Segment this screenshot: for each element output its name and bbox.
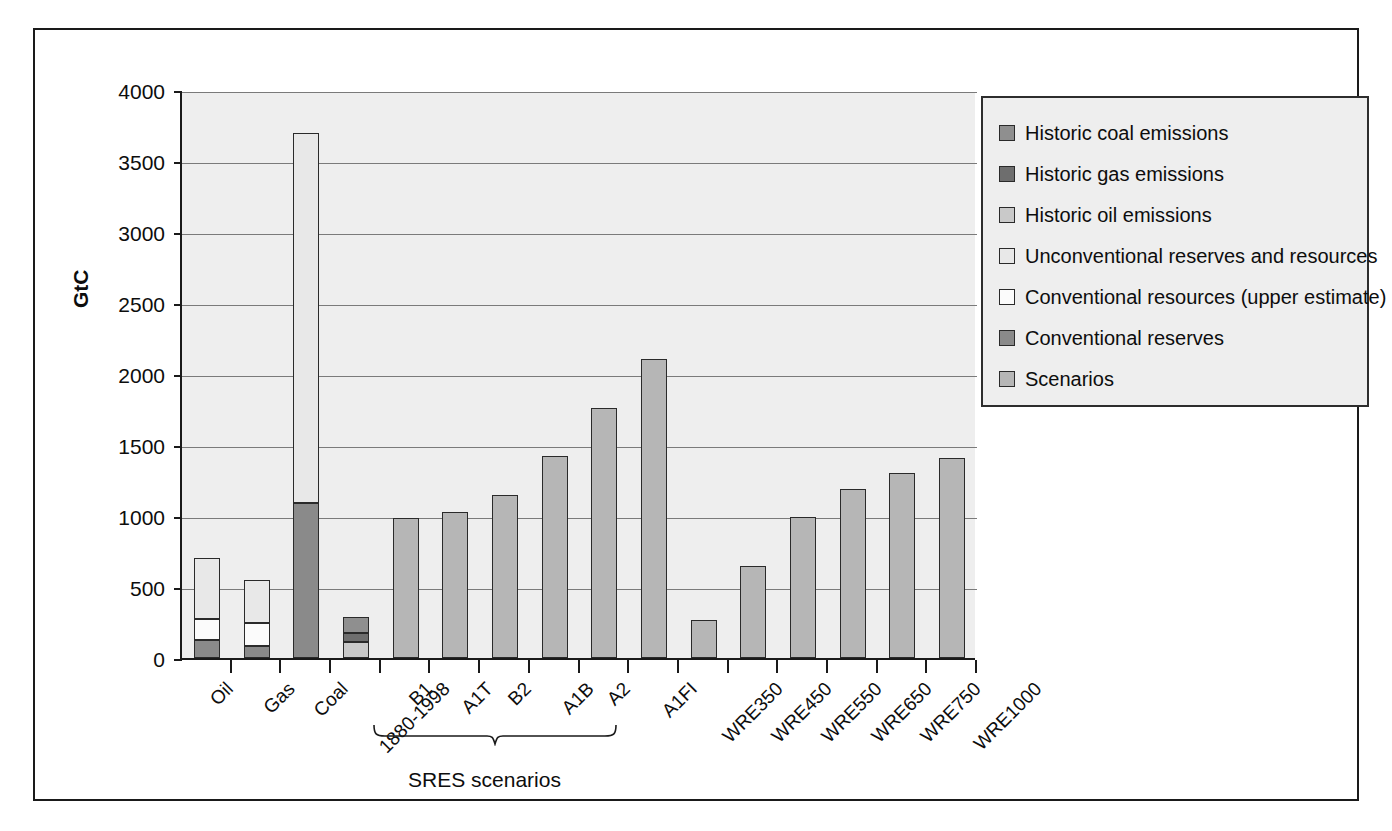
- segment-historic_gas: [343, 633, 369, 642]
- legend-label-1: Historic gas emissions: [1025, 164, 1224, 184]
- segment-conv_reserves: [293, 503, 319, 658]
- y-tick-label-2500: 2500: [95, 294, 165, 315]
- y-axis-title: GtC: [69, 270, 93, 309]
- y-tick-label-500: 500: [95, 578, 165, 599]
- bar-wre650: [840, 489, 866, 658]
- y-tick-3500: [174, 162, 182, 164]
- legend-item-4: Conventional resources (upper estimate): [999, 276, 1351, 317]
- bar-wre750: [889, 473, 915, 658]
- bar-b2: [492, 495, 518, 658]
- x-tick-label-a1b: A1B: [557, 678, 598, 719]
- segment-unconventional: [194, 558, 220, 619]
- bar-a1b: [542, 456, 568, 658]
- y-tick-label-1500: 1500: [95, 436, 165, 457]
- x-tick-3: [379, 660, 381, 673]
- plot-area-wrapper: [180, 92, 975, 660]
- x-tick-15: [975, 660, 977, 673]
- bar-1880-1998: [343, 617, 369, 658]
- legend-item-3: Unconventional reserves and resources: [999, 235, 1351, 276]
- x-tick-13: [876, 660, 878, 673]
- bar-wre550: [790, 517, 816, 658]
- legend-swatch-historic-gas-icon: [999, 166, 1015, 182]
- y-tick-2000: [174, 375, 182, 377]
- x-tick-label-coal: Coal: [310, 678, 353, 721]
- chart-page: GtC 05001000150020002500300035004000 Oil…: [0, 0, 1392, 831]
- legend-label-4: Conventional resources (upper estimate): [1025, 287, 1386, 307]
- x-tick-label-a2: A2: [603, 678, 635, 710]
- segment-scenarios: [740, 566, 766, 658]
- bar-a1t: [442, 512, 468, 658]
- bar-oil: [194, 558, 220, 658]
- x-tick-5: [478, 660, 480, 673]
- segment-unconventional: [293, 133, 319, 504]
- segment-historic_coal: [343, 617, 369, 633]
- legend-label-5: Conventional reserves: [1025, 328, 1224, 348]
- legend-swatch-unconventional-icon: [999, 248, 1015, 264]
- bar-wre350: [691, 620, 717, 658]
- segment-scenarios: [939, 458, 965, 658]
- segment-scenarios: [393, 518, 419, 658]
- legend-label-3: Unconventional reserves and resources: [1025, 246, 1377, 266]
- gridline-4000: [182, 92, 977, 93]
- segment-unconventional: [244, 580, 270, 623]
- y-tick-2500: [174, 304, 182, 306]
- x-tick-11: [776, 660, 778, 673]
- legend-swatch-historic-oil-icon: [999, 207, 1015, 223]
- x-tick-10: [727, 660, 729, 673]
- bar-b1: [393, 518, 419, 658]
- x-tick-12: [826, 660, 828, 673]
- bar-wre1000: [939, 458, 965, 658]
- segment-scenarios: [641, 359, 667, 658]
- x-tick-label-a1fi: A1FI: [658, 678, 702, 722]
- segment-conv_reserves: [194, 640, 220, 658]
- y-tick-3000: [174, 233, 182, 235]
- segment-scenarios: [840, 489, 866, 658]
- y-tick-label-0: 0: [95, 649, 165, 670]
- x-tick-0: [230, 660, 232, 673]
- segment-conv_resources: [194, 619, 220, 640]
- x-tick-14: [925, 660, 927, 673]
- bar-a1fi: [641, 359, 667, 658]
- segment-scenarios: [591, 408, 617, 658]
- x-tick-8: [627, 660, 629, 673]
- segment-scenarios: [889, 473, 915, 658]
- x-tick-7: [578, 660, 580, 673]
- y-tick-label-3500: 3500: [95, 152, 165, 173]
- bar-gas: [244, 580, 270, 658]
- y-tick-1000: [174, 517, 182, 519]
- bar-coal: [293, 133, 319, 658]
- x-tick-6: [528, 660, 530, 673]
- legend-swatch-scenarios-icon: [999, 371, 1015, 387]
- segment-conv_resources: [244, 623, 270, 646]
- y-tick-label-4000: 4000: [95, 81, 165, 102]
- legend-label-0: Historic coal emissions: [1025, 123, 1228, 143]
- segment-conv_reserves: [244, 646, 270, 658]
- segment-scenarios: [492, 495, 518, 658]
- segment-scenarios: [790, 517, 816, 658]
- x-tick-label-a1t: A1T: [457, 678, 497, 718]
- x-tick-label-gas: Gas: [259, 678, 299, 718]
- y-tick-label-3000: 3000: [95, 223, 165, 244]
- legend-item-0: Historic coal emissions: [999, 112, 1351, 153]
- x-tick-label-b2: B2: [504, 678, 536, 710]
- segment-scenarios: [542, 456, 568, 658]
- x-tick-label-oil: Oil: [206, 678, 238, 710]
- legend-item-1: Historic gas emissions: [999, 153, 1351, 194]
- bar-a2: [591, 408, 617, 658]
- x-tick-2: [329, 660, 331, 673]
- legend-swatch-conventional-resources-icon: [999, 289, 1015, 305]
- legend-item-5: Conventional reserves: [999, 317, 1351, 358]
- y-tick-0: [174, 659, 182, 661]
- y-tick-label-1000: 1000: [95, 507, 165, 528]
- segment-scenarios: [691, 620, 717, 658]
- sres-bracket-label: SRES scenarios: [408, 768, 561, 792]
- legend-item-6: Scenarios: [999, 358, 1351, 399]
- x-tick-4: [428, 660, 430, 673]
- y-tick-label-2000: 2000: [95, 365, 165, 386]
- legend-label-2: Historic oil emissions: [1025, 205, 1212, 225]
- sres-bracket: [373, 724, 617, 746]
- y-tick-500: [174, 588, 182, 590]
- x-tick-9: [677, 660, 679, 673]
- legend-item-2: Historic oil emissions: [999, 194, 1351, 235]
- legend-swatch-historic-coal-icon: [999, 125, 1015, 141]
